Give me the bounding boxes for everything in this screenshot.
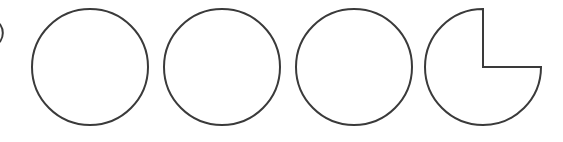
fraction-diagram bbox=[0, 0, 563, 142]
partial-circle-left-edge bbox=[0, 20, 3, 46]
full-circle-2 bbox=[164, 9, 280, 125]
full-circle-1 bbox=[32, 9, 148, 125]
three-quarter-circle bbox=[425, 9, 541, 125]
full-circle-3 bbox=[296, 9, 412, 125]
